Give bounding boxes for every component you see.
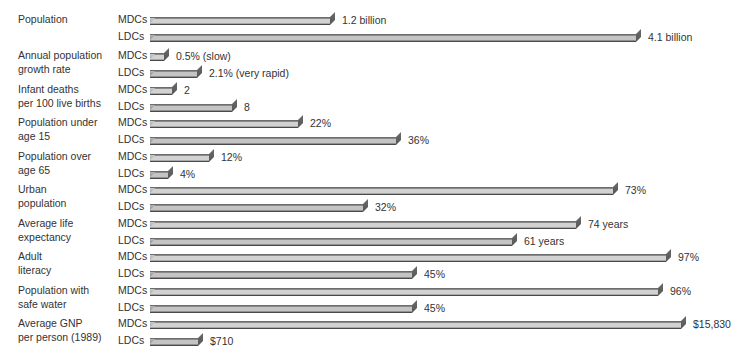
bar-value-label: $15,830 [693,318,731,330]
bar-end-cap [666,249,671,262]
bar-end-cap [636,29,641,42]
group-label-mdcs: MDCs [118,49,148,62]
bar-end-cap [164,48,169,61]
bar-value-label: 36% [408,134,429,146]
chart-row: Infant deathsper 100 live birthsMDCs2LDC… [0,83,695,117]
bar-end-cap [232,99,237,112]
bar-3d [150,199,369,215]
bar-front-face [150,271,412,279]
bar-top-face [150,138,401,143]
bar-front-face [150,187,613,195]
bar-value-label: 73% [625,184,646,196]
bar-3d [150,29,642,45]
bar-end-cap [512,233,517,246]
bar-top-face [150,289,663,294]
bar-end-cap [412,266,417,279]
bar-top-face [150,272,417,277]
bar-value-label: 1.2 billion [342,14,386,26]
bar-end-cap [330,12,335,25]
bar-front-face [150,204,363,212]
bar-top-face [150,222,581,227]
group-label-mdcs: MDCs [118,250,148,263]
bar-value-label: 97% [678,251,699,263]
group-label-ldcs: LDCs [118,66,148,79]
group-label-mdcs: MDCs [118,217,148,230]
bar-end-cap [658,283,663,296]
bar-3d [150,182,619,198]
bar-value-label: 45% [424,302,445,314]
chart-row: Average lifeexpectancyMDCs74 yearsLDCs61… [0,217,695,251]
bar-3d [150,99,238,115]
bar-value-label: 2 [184,84,190,96]
bar-top-face [150,155,214,160]
chart-row: Population underage 15MDCs22%LDCs36% [0,116,695,150]
chart-row: Population overage 65MDCs12%LDCs4% [0,150,695,184]
group-label-mdcs: MDCs [118,116,148,129]
bar-3d [150,216,582,232]
bar-end-cap [613,182,618,195]
bar-value-label: 74 years [588,218,628,230]
group-label-ldcs: LDCs [118,167,148,180]
bar-top-face [150,239,517,244]
chart-row: UrbanpopulationMDCs73%LDCs32% [0,183,695,217]
bar-value-label: 96% [670,285,691,297]
bar-3d [150,316,687,332]
bar-front-face [150,53,164,61]
bar-front-face [150,254,666,262]
bar-top-face [150,339,203,344]
bar-end-cap [681,316,686,329]
bar-value-label: 61 years [524,235,564,247]
bar-3d [150,233,518,249]
group-label-mdcs: MDCs [118,150,148,163]
bar-top-face [150,71,202,76]
bar-top-face [150,205,368,210]
bar-front-face [150,70,197,78]
bar-top-face [150,306,417,311]
bar-value-label: 2.1% (very rapid) [209,67,289,79]
bar-top-face [150,105,237,110]
bar-end-cap [576,216,581,229]
bar-3d [150,300,418,316]
bar-value-label: 45% [424,268,445,280]
group-label-ldcs: LDCs [118,234,148,247]
bar-front-face [150,238,512,246]
bar-front-face [150,104,232,112]
bar-3d [150,266,418,282]
bar-end-cap [168,166,173,179]
chart-row: Annual populationgrowth rateMDCs0.5% (sl… [0,49,695,83]
bar-front-face [150,221,576,229]
bar-front-face [150,120,298,128]
group-label-ldcs: LDCs [118,133,148,146]
group-label-mdcs: MDCs [118,183,148,196]
group-label-mdcs: MDCs [118,83,148,96]
bar-top-face [150,188,618,193]
bar-3d [150,132,402,148]
bar-front-face [150,34,636,42]
bar-value-label: 0.5% (slow) [176,50,231,62]
bar-top-face [150,121,303,126]
bar-end-cap [396,132,401,145]
bar-value-label: 4% [180,168,195,180]
bar-top-face [150,255,671,260]
bar-front-face [150,154,209,162]
bar-top-face [150,18,335,23]
bar-value-label: 12% [221,151,242,163]
bar-3d [150,166,174,182]
bar-value-label: 22% [310,117,331,129]
chart-row: Population withsafe waterMDCs96%LDCs45% [0,284,695,318]
bar-3d [150,283,664,299]
group-label-ldcs: LDCs [118,200,148,213]
bar-top-face [150,35,641,40]
group-label-mdcs: MDCs [118,13,148,26]
group-label-mdcs: MDCs [118,284,148,297]
group-label-ldcs: LDCs [118,301,148,314]
bar-3d [150,149,215,165]
group-label-ldcs: LDCs [118,267,148,280]
bar-value-label: 4.1 billion [648,31,692,43]
bar-front-face [150,17,330,25]
bar-top-face [150,322,686,327]
bar-front-face [150,137,396,145]
bar-3d [150,249,672,265]
bar-front-face [150,321,681,329]
